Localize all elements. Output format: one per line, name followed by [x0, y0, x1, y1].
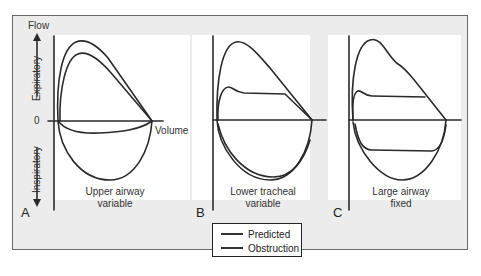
legend-item-obstruction: Obstruction [221, 241, 299, 255]
legend-item-predicted: Predicted [221, 227, 290, 241]
panel-a-letter: A [21, 205, 30, 220]
panel-a-predicted-exp [58, 41, 152, 121]
panel-c-caption-line1: Large airway [356, 186, 446, 198]
panel-a-caption-line1: Upper airway [70, 186, 160, 198]
zero-label: 0 [34, 115, 40, 126]
arrow-up-icon [33, 33, 41, 41]
panel-b-caption-line1: Lower tracheal [218, 186, 308, 198]
arrow-down-icon [33, 199, 41, 207]
line-swatch-icon [221, 247, 243, 249]
y-axis-label: Flow [28, 20, 49, 31]
panel-c-caption: Large airway fixed [356, 186, 446, 210]
legend: Predicted Obstruction [212, 223, 302, 257]
inspiratory-label: Inspiratory [31, 146, 42, 193]
panel-a-caption: Upper airway variable [70, 186, 160, 210]
cropped-caption-strip [0, 268, 481, 276]
line-swatch-icon [221, 233, 243, 235]
panel-b-letter: B [196, 205, 205, 220]
panel-b-caption: Lower tracheal variable [218, 186, 308, 210]
panel-a-caption-line2: variable [70, 198, 160, 210]
panel-b-caption-line2: variable [218, 198, 308, 210]
x-axis-label: Volume [155, 125, 188, 136]
panel-c-letter: C [333, 205, 342, 220]
panel-c-caption-line2: fixed [356, 198, 446, 210]
expiratory-label: Expiratory [31, 56, 42, 101]
